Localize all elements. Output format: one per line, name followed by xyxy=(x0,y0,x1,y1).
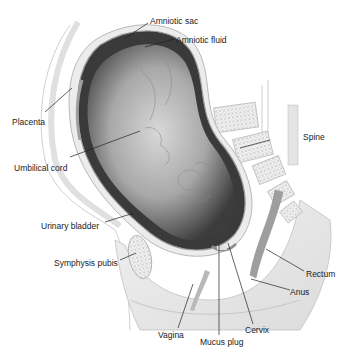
label-spine: Spine xyxy=(303,133,325,142)
label-rectum: Rectum xyxy=(306,270,335,279)
label-mucus-plug: Mucus plug xyxy=(200,338,243,347)
label-vagina: Vagina xyxy=(158,331,184,340)
label-urinary-bladder: Urinary bladder xyxy=(41,222,99,231)
label-umbilical-cord: Umbilical cord xyxy=(14,164,67,173)
label-cervix: Cervix xyxy=(245,326,269,335)
label-symphysis-pubis: Symphysis pubis xyxy=(54,259,118,268)
label-amniotic-sac: Amniotic sac xyxy=(150,17,198,26)
anatomy-illustration xyxy=(0,0,347,354)
label-placenta: Placenta xyxy=(12,118,45,127)
label-anus: Anus xyxy=(290,288,309,297)
mucus-plug xyxy=(217,246,227,250)
label-amniotic-fluid: Amniotic fluid xyxy=(176,36,227,45)
